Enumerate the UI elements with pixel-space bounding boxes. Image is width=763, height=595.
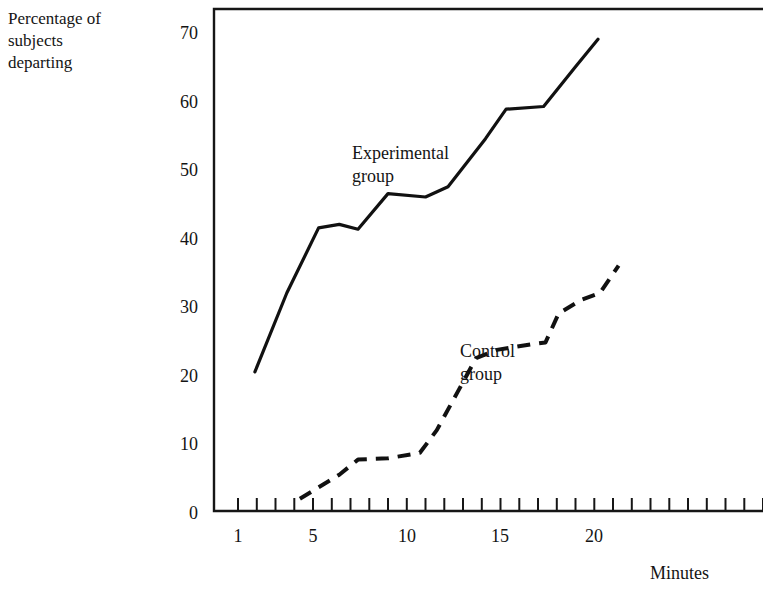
series-line-experimental-group (255, 39, 598, 372)
plot-area (0, 0, 763, 595)
series-annotation-control-group: Control group (460, 340, 515, 386)
series-annotation-control-line-1: Control (460, 340, 515, 363)
chart-figure: Percentage of subjects departing 70 60 5… (0, 0, 763, 595)
x-axis-tick-marks (238, 498, 763, 511)
series-annotation-experimental-line-2: group (352, 165, 449, 188)
series-annotation-experimental-line-1: Experimental (352, 142, 449, 165)
series-annotation-control-line-2: group (460, 363, 515, 386)
plot-frame (214, 9, 763, 511)
series-annotation-experimental-group: Experimental group (352, 142, 449, 188)
